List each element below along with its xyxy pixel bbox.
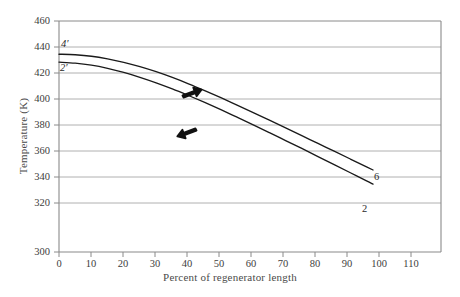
xtick-label-20: 20 — [108, 258, 138, 269]
xtick-label-10: 10 — [76, 258, 106, 269]
plot-frame — [59, 21, 441, 252]
xtick-label-100: 100 — [364, 258, 394, 269]
xtick-label-90: 90 — [332, 258, 362, 269]
plot-gridlines — [59, 21, 441, 203]
y-axis-ticks — [54, 21, 59, 252]
flow-arrow-lower — [177, 129, 196, 139]
curve-start-label-upper: 4′ — [61, 38, 69, 49]
x-axis-title: Percent of regenerator length — [0, 271, 460, 283]
chart-figure: 460 440 420 400 380 360 340 320 300 0 10… — [0, 0, 460, 297]
curve-end-label-upper: 6 — [374, 171, 379, 182]
x-axis-ticks — [59, 252, 411, 257]
ytick-label-460: 460 — [16, 15, 50, 26]
data-curves — [59, 54, 373, 184]
xtick-label-70: 70 — [268, 258, 298, 269]
chart-plot-svg — [0, 0, 460, 297]
flow-arrow-upper — [183, 88, 202, 98]
arrow-left-glyph — [177, 129, 196, 139]
xtick-label-60: 60 — [236, 258, 266, 269]
curve-end-label-lower: 2 — [362, 203, 367, 214]
xtick-label-40: 40 — [172, 258, 202, 269]
curve-start-label-lower: 2′ — [60, 62, 68, 73]
curve-2 — [59, 62, 373, 184]
xtick-label-30: 30 — [140, 258, 170, 269]
xtick-label-0: 0 — [44, 258, 74, 269]
xtick-label-80: 80 — [300, 258, 330, 269]
y-axis-title: Temperature (K) — [17, 66, 29, 206]
arrow-right-glyph — [183, 88, 202, 98]
ytick-label-300: 300 — [16, 246, 50, 257]
xtick-label-110: 110 — [396, 258, 426, 269]
ytick-label-440: 440 — [16, 41, 50, 52]
curve-6 — [59, 54, 373, 170]
xtick-label-50: 50 — [204, 258, 234, 269]
